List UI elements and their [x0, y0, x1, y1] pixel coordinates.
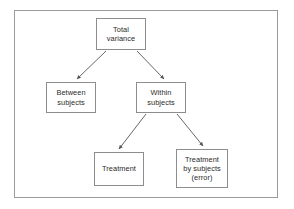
edge-total-to-within	[137, 51, 164, 79]
node-label-total-variance: Total variance	[107, 25, 135, 44]
edge-total-to-between	[77, 51, 106, 79]
node-label-treatment: Treatment	[102, 164, 136, 173]
variance-diagram: Total variance Between subjects Within s…	[0, 0, 294, 209]
node-within-subjects[interactable]: Within subjects	[136, 82, 186, 113]
edge-within-to-treatment	[119, 114, 146, 149]
node-between-subjects[interactable]: Between subjects	[46, 82, 96, 113]
node-label-between-subjects: Between subjects	[56, 88, 85, 107]
node-label-treatment-by-subjects-error: Treatment by subjects (error)	[183, 155, 221, 183]
node-treatment[interactable]: Treatment	[94, 152, 144, 186]
node-total-variance[interactable]: Total variance	[96, 18, 146, 50]
node-label-within-subjects: Within subjects	[147, 88, 175, 107]
node-treatment-by-subjects-error[interactable]: Treatment by subjects (error)	[176, 149, 228, 188]
edge-within-to-error	[177, 114, 203, 146]
